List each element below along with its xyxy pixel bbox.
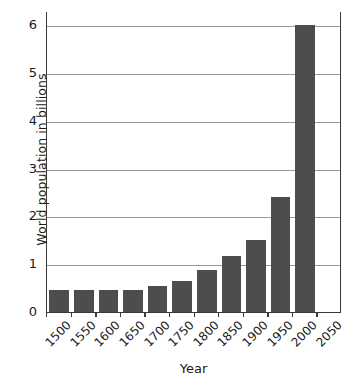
x-tick-mark-1850 bbox=[218, 313, 219, 317]
bar-1850 bbox=[222, 256, 242, 312]
y-tick-label-4: 4 bbox=[15, 113, 37, 128]
y-tick-label-0: 0 bbox=[15, 304, 37, 319]
x-axis-title: Year bbox=[46, 361, 341, 376]
x-tick-mark-2050 bbox=[316, 313, 317, 317]
bar-1750 bbox=[172, 281, 192, 312]
x-tick-mark-2000 bbox=[292, 313, 293, 317]
x-tick-mark-1500 bbox=[46, 313, 47, 317]
x-tick-mark-1650 bbox=[120, 313, 121, 317]
x-tick-mark-1900 bbox=[243, 313, 244, 317]
bar-1800 bbox=[197, 270, 217, 312]
x-tick-mark-1700 bbox=[144, 313, 145, 317]
bar-1700 bbox=[148, 286, 168, 312]
y-tick-label-3: 3 bbox=[15, 161, 37, 176]
y-tick-label-2: 2 bbox=[15, 208, 37, 223]
x-tick-mark-1950 bbox=[267, 313, 268, 317]
bars-group bbox=[47, 12, 340, 312]
y-tick-label-5: 5 bbox=[15, 65, 37, 80]
bar-2000 bbox=[295, 25, 315, 312]
y-tick-label-1: 1 bbox=[15, 256, 37, 271]
y-tick-label-6: 6 bbox=[15, 17, 37, 32]
bar-1550 bbox=[74, 290, 94, 312]
bar-1900 bbox=[246, 240, 266, 312]
x-tick-mark-1550 bbox=[71, 313, 72, 317]
x-tick-mark-1600 bbox=[95, 313, 96, 317]
x-tick-mark-1750 bbox=[169, 313, 170, 317]
bar-1500 bbox=[49, 290, 69, 312]
x-tick-mark-1800 bbox=[194, 313, 195, 317]
population-bar-chart: World population in billions 0123456 150… bbox=[0, 0, 357, 384]
bar-1600 bbox=[99, 290, 119, 312]
plot-area bbox=[46, 12, 341, 313]
bar-1650 bbox=[123, 290, 143, 312]
bar-1950 bbox=[271, 197, 291, 312]
